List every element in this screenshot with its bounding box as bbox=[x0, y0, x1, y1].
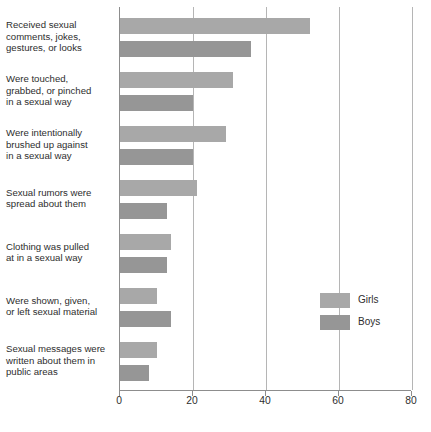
category-label-1: Were touched,grabbed, or pinchedin a sex… bbox=[6, 73, 116, 108]
category-label-3: Sexual rumors werespread about them bbox=[6, 187, 116, 210]
bar-boys-6 bbox=[120, 365, 149, 381]
gridline-40 bbox=[266, 7, 267, 390]
category-label-line: Received sexual bbox=[6, 19, 116, 31]
category-label-5: Were shown, given,or left sexual materia… bbox=[6, 295, 116, 318]
category-label-6: Sexual messages werewritten about them i… bbox=[6, 343, 116, 378]
bar-girls-2 bbox=[120, 126, 226, 142]
bar-boys-4 bbox=[120, 257, 167, 273]
category-label-0: Received sexualcomments, jokes,gestures,… bbox=[6, 19, 116, 54]
category-label-line: public areas bbox=[6, 366, 116, 378]
bar-girls-0 bbox=[120, 18, 310, 34]
category-label-line: Sexual rumors were bbox=[6, 187, 116, 199]
x-tick-label-60: 60 bbox=[318, 395, 358, 406]
gridline-60 bbox=[339, 7, 340, 390]
legend-label-girls: Girls bbox=[358, 294, 379, 305]
bar-girls-5 bbox=[120, 288, 157, 304]
legend-swatch-boys-icon bbox=[320, 315, 350, 330]
bar-boys-2 bbox=[120, 149, 193, 165]
bar-chart: Received sexualcomments, jokes,gestures,… bbox=[0, 0, 431, 432]
category-label-line: in a sexual way bbox=[6, 96, 116, 108]
category-label-line: or left sexual material bbox=[6, 306, 116, 318]
x-tick-label-0: 0 bbox=[99, 395, 139, 406]
category-label-line: Were intentionally bbox=[6, 127, 116, 139]
bar-girls-3 bbox=[120, 180, 197, 196]
legend-label-boys: Boys bbox=[358, 316, 380, 327]
bar-girls-4 bbox=[120, 234, 171, 250]
category-label-line: grabbed, or pinched bbox=[6, 85, 116, 97]
category-label-line: brushed up against bbox=[6, 139, 116, 151]
x-tick-label-40: 40 bbox=[245, 395, 285, 406]
bar-boys-5 bbox=[120, 311, 171, 327]
bar-girls-6 bbox=[120, 342, 157, 358]
gridline-80 bbox=[412, 7, 413, 390]
category-label-line: comments, jokes, bbox=[6, 31, 116, 43]
category-label-line: in a sexual way bbox=[6, 150, 116, 162]
gridline-20 bbox=[193, 7, 194, 390]
category-label-line: spread about them bbox=[6, 198, 116, 210]
category-label-line: gestures, or looks bbox=[6, 42, 116, 54]
x-tick-label-20: 20 bbox=[172, 395, 212, 406]
x-tick-label-80: 80 bbox=[391, 395, 431, 406]
bar-boys-0 bbox=[120, 41, 251, 57]
category-label-4: Clothing was pulledat in a sexual way bbox=[6, 241, 116, 264]
bar-boys-1 bbox=[120, 95, 193, 111]
category-label-2: Were intentionallybrushed up againstin a… bbox=[6, 127, 116, 162]
category-label-line: written about them in bbox=[6, 355, 116, 367]
bar-boys-3 bbox=[120, 203, 167, 219]
category-label-line: Sexual messages were bbox=[6, 343, 116, 355]
category-label-line: Were touched, bbox=[6, 73, 116, 85]
plot-area bbox=[119, 7, 411, 391]
bar-girls-1 bbox=[120, 72, 233, 88]
category-label-line: Were shown, given, bbox=[6, 295, 116, 307]
legend-swatch-girls-icon bbox=[320, 293, 350, 308]
category-label-line: Clothing was pulled bbox=[6, 241, 116, 253]
category-label-line: at in a sexual way bbox=[6, 252, 116, 264]
